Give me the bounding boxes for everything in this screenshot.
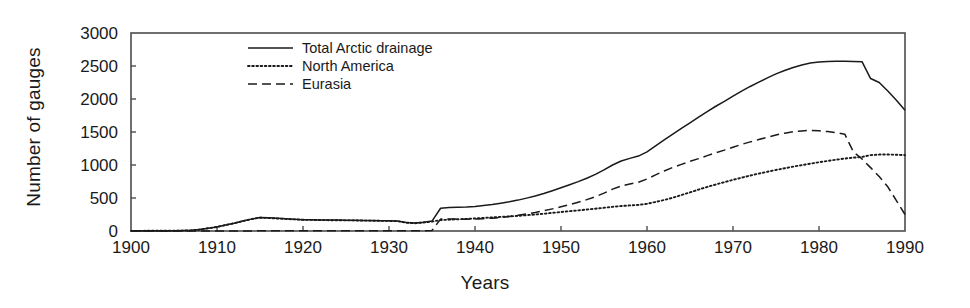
y-tick-label: 1000 xyxy=(26,157,118,174)
chart-figure: Number of gauges Years 05001000150020002… xyxy=(0,0,970,308)
y-tick-label: 3000 xyxy=(26,25,118,42)
y-tick-label: 0 xyxy=(26,223,118,240)
x-tick-label: 1950 xyxy=(521,239,601,256)
x-tick-label: 1930 xyxy=(349,239,429,256)
x-tick-label: 1970 xyxy=(693,239,773,256)
x-tick-label: 1940 xyxy=(435,239,515,256)
y-tick-label: 1500 xyxy=(26,124,118,141)
series-line-1 xyxy=(131,154,905,230)
x-tick-label: 1900 xyxy=(91,239,171,256)
legend-label-2: Eurasia xyxy=(302,77,351,92)
y-tick-label: 2500 xyxy=(26,58,118,75)
chart-plot-area xyxy=(0,0,970,308)
x-axis-title: Years xyxy=(0,272,970,294)
x-tick-label: 1910 xyxy=(177,239,257,256)
x-tick-label: 1960 xyxy=(607,239,687,256)
x-tick-label: 1990 xyxy=(865,239,945,256)
series-line-0 xyxy=(131,61,905,231)
x-tick-label: 1980 xyxy=(779,239,859,256)
legend-label-1: North America xyxy=(302,59,394,74)
x-tick-label: 1920 xyxy=(263,239,343,256)
series-line-2 xyxy=(131,130,905,231)
y-tick-label: 2000 xyxy=(26,91,118,108)
legend-label-0: Total Arctic drainage xyxy=(302,41,433,56)
y-tick-label: 500 xyxy=(26,190,118,207)
